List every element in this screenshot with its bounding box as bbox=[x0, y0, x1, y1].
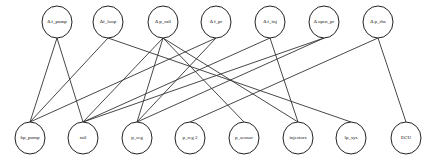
edge-dopen_pr-to-p_reg bbox=[137, 38, 324, 122]
node-df_inj[interactable]: Δ f_inj bbox=[255, 6, 285, 38]
edges-layer bbox=[30, 38, 406, 122]
node-lp_sys[interactable]: lp_sys bbox=[336, 122, 366, 154]
edge-dp_rbs-to-ECU bbox=[378, 38, 406, 122]
node-rail[interactable]: rail bbox=[68, 122, 98, 154]
node-label: hp_pump bbox=[21, 135, 40, 140]
node-label: injectors bbox=[289, 135, 306, 140]
edge-df_pump-to-hp_pump bbox=[30, 38, 57, 122]
node-dopen_pr[interactable]: Δ open_pr bbox=[309, 6, 339, 38]
node-label: Δ f_inj bbox=[263, 19, 277, 24]
edge-dopen_pr-to-rail bbox=[83, 38, 324, 122]
node-p_reg2[interactable]: p_reg 2 bbox=[175, 122, 205, 154]
node-injectors[interactable]: injectors bbox=[283, 122, 313, 154]
node-df_pr[interactable]: Δ f_pr bbox=[201, 6, 231, 38]
node-ECU[interactable]: ECU bbox=[391, 122, 421, 154]
edge-df_inj-to-rail bbox=[83, 38, 270, 122]
edge-dp_rbs-to-p_reg2 bbox=[190, 38, 378, 122]
node-label: p_sensor bbox=[235, 135, 253, 140]
edge-df_pr-to-hp_pump bbox=[30, 38, 216, 122]
edge-df_loop-to-hp_pump bbox=[30, 38, 108, 122]
node-label: lp_sys bbox=[345, 135, 358, 140]
fault-diagnosis-graph: Δ f_pumpΔf_loopΔ p_railΔ f_prΔ f_injΔ op… bbox=[0, 0, 438, 166]
node-label: Δ p_rbs bbox=[370, 19, 385, 24]
node-label: Δ open_pr bbox=[314, 19, 335, 24]
node-label: ECU bbox=[401, 135, 411, 140]
node-df_loop[interactable]: Δf_loop bbox=[93, 6, 123, 38]
edge-dp_rail-to-p_reg bbox=[137, 38, 163, 122]
nodes-layer: Δ f_pumpΔf_loopΔ p_railΔ f_prΔ f_injΔ op… bbox=[15, 6, 421, 154]
node-hp_pump[interactable]: hp_pump bbox=[15, 122, 45, 154]
node-label: p_reg 2 bbox=[182, 135, 198, 140]
node-label: p_reg bbox=[131, 135, 143, 140]
node-label: Δ f_pump bbox=[47, 19, 67, 24]
node-p_sensor[interactable]: p_sensor bbox=[229, 122, 259, 154]
node-label: rail bbox=[80, 135, 87, 140]
node-label: Δ p_rail bbox=[155, 19, 171, 24]
node-label: Δ f_pr bbox=[210, 19, 223, 24]
edge-df_pump-to-rail bbox=[57, 38, 83, 122]
node-dp_rail[interactable]: Δ p_rail bbox=[148, 6, 178, 38]
node-dp_rbs[interactable]: Δ p_rbs bbox=[363, 6, 393, 38]
node-df_pump[interactable]: Δ f_pump bbox=[42, 6, 72, 38]
node-p_reg[interactable]: p_reg bbox=[122, 122, 152, 154]
node-label: Δf_loop bbox=[100, 19, 117, 24]
